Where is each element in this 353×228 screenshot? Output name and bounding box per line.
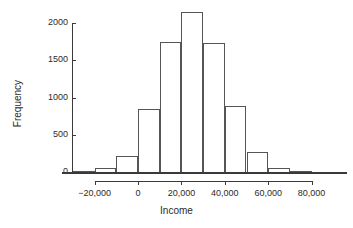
histogram-bar xyxy=(181,12,203,172)
y-axis-title: Frequency xyxy=(12,49,23,159)
histogram-bar xyxy=(225,106,247,172)
x-axis-title: Income xyxy=(0,205,353,216)
histogram-bar xyxy=(138,109,160,172)
histogram-bars xyxy=(0,0,353,228)
histogram-bar xyxy=(116,156,138,172)
histogram-bar xyxy=(160,42,182,172)
histogram-bar xyxy=(203,43,225,172)
baseline-rule xyxy=(62,172,347,174)
histogram-bar xyxy=(247,152,269,172)
histogram-figure: 0500100015002000 −20,000020,00040,00060,… xyxy=(0,0,353,228)
